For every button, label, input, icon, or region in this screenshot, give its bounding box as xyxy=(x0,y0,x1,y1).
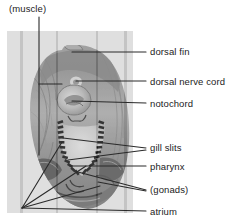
label-muscle: (muscle) xyxy=(9,3,46,14)
label-dorsal-fin: dorsal fin xyxy=(150,46,190,57)
figure-canvas xyxy=(0,0,240,222)
lancelet-cross-section-figure: (muscle) dorsal fin dorsal nerve cord no… xyxy=(0,0,240,222)
label-notochord: notochord xyxy=(150,98,193,109)
label-gill-slits: gill slits xyxy=(150,142,182,153)
label-dorsal-nerve-cord: dorsal nerve cord xyxy=(150,76,225,87)
label-atrium: atrium xyxy=(150,206,177,217)
label-pharynx: pharynx xyxy=(150,161,185,172)
specimen-photo xyxy=(7,31,133,213)
label-gonads: (gonads) xyxy=(150,184,188,195)
